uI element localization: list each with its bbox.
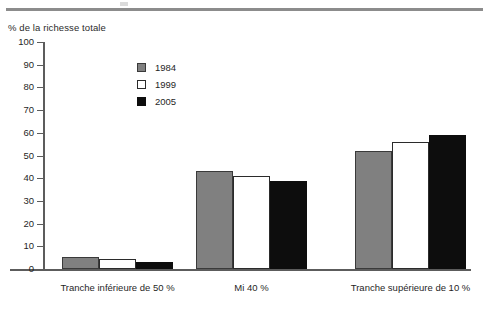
- y-axis-tick-80: [37, 87, 43, 88]
- y-axis-line: [43, 42, 45, 271]
- legend-swatch-icon-1984: [137, 63, 146, 72]
- x-axis-label-2: Mi 40 %: [234, 282, 268, 293]
- y-axis-tick-label-0: 0: [0, 263, 34, 274]
- legend-item-1999[interactable]: 1999: [137, 76, 176, 93]
- y-axis-tick-70: [37, 110, 43, 111]
- y-axis-tick-label-60: 60: [0, 127, 34, 138]
- legend-swatch-icon-2005: [137, 97, 146, 106]
- chart-legend: 1984 1999 2005: [137, 59, 176, 110]
- y-axis-tick-label-10: 10: [0, 240, 34, 251]
- y-axis-tick-30: [37, 201, 43, 202]
- y-axis-tick-40: [37, 178, 43, 179]
- x-axis-label-3: Tranche supérieure de 10 %: [351, 282, 471, 293]
- chart-figure: % de la richesse totale 1009080706050403…: [0, 0, 489, 310]
- y-axis-tick-label-20: 20: [0, 218, 34, 229]
- legend-label-1984: 1984: [155, 62, 176, 73]
- bar-2005-group-1[interactable]: [136, 262, 173, 269]
- bar-group-3: [355, 41, 466, 269]
- bar-group-2: [196, 41, 307, 269]
- bar-1984-group-3[interactable]: [355, 151, 392, 269]
- legend-swatch-icon-1999: [137, 80, 146, 89]
- legend-item-1984[interactable]: 1984: [137, 59, 176, 76]
- y-axis-tick-label-80: 80: [0, 81, 34, 92]
- y-axis-tick-20: [37, 224, 43, 225]
- bar-1999-group-1[interactable]: [99, 259, 136, 269]
- legend-label-2005: 2005: [155, 96, 176, 107]
- bar-1984-group-2[interactable]: [196, 171, 233, 269]
- legend-label-1999: 1999: [155, 79, 176, 90]
- bar-1984-group-1[interactable]: [62, 257, 99, 269]
- legend-item-2005[interactable]: 2005: [137, 93, 176, 110]
- y-axis-tick-label-90: 90: [0, 59, 34, 70]
- y-axis-tick-label-70: 70: [0, 104, 34, 115]
- bar-1999-group-2[interactable]: [233, 176, 270, 269]
- y-axis-tick-label-40: 40: [0, 172, 34, 183]
- plot-area: 1009080706050403020100 Tranche inférieur…: [0, 0, 489, 310]
- y-axis-tick-90: [37, 65, 43, 66]
- x-axis-line: [10, 269, 471, 271]
- y-axis-tick-label-50: 50: [0, 150, 34, 161]
- y-axis-tick-label-30: 30: [0, 195, 34, 206]
- y-axis-tick-100: [37, 42, 43, 43]
- y-axis-tick-60: [37, 133, 43, 134]
- y-axis-tick-0: [37, 269, 43, 270]
- x-axis-label-1: Tranche inférieure de 50 %: [60, 282, 174, 293]
- y-axis-tick-50: [37, 156, 43, 157]
- bar-1999-group-3[interactable]: [392, 142, 429, 269]
- y-axis-tick-10: [37, 246, 43, 247]
- bar-2005-group-3[interactable]: [429, 135, 466, 269]
- y-axis-tick-label-100: 100: [0, 36, 34, 47]
- bar-2005-group-2[interactable]: [270, 181, 307, 269]
